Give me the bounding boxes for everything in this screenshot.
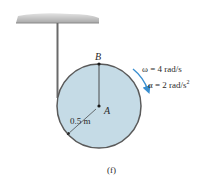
omega-label: ω = 4 rad/s bbox=[142, 64, 182, 74]
pulley-diagram: B A 0.5 m ω = 4 rad/s α = 2 rad/s2 (f) bbox=[0, 0, 223, 188]
ceiling-support bbox=[16, 13, 99, 23]
alpha-label: α = 2 rad/s2 bbox=[148, 79, 190, 90]
point-a-label: A bbox=[103, 105, 111, 116]
point-b-dot bbox=[97, 62, 100, 65]
radius-label: 0.5 m bbox=[70, 116, 91, 126]
point-b-label: B bbox=[95, 51, 101, 62]
figure-caption: (f) bbox=[107, 165, 116, 175]
point-a-dot bbox=[97, 104, 100, 107]
